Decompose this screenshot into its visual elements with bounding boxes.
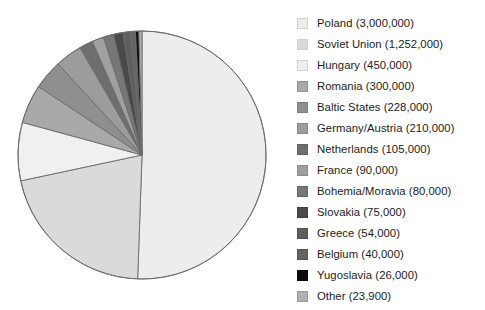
legend-item[interactable]: Germany/Austria (210,000)	[297, 118, 485, 139]
legend-item-label: France (90,000)	[317, 165, 398, 176]
legend-item-label: Bohemia/Moravia (80,000)	[317, 186, 451, 197]
legend-item-label: Hungary (450,000)	[317, 60, 412, 71]
legend-item[interactable]: France (90,000)	[297, 160, 485, 181]
legend-item[interactable]: Baltic States (228,000)	[297, 97, 485, 118]
legend-item-label: Yugoslavia (26,000)	[317, 270, 418, 281]
legend-item-label: Netherlands (105,000)	[317, 144, 430, 155]
legend-item-label: Romania (300,000)	[317, 81, 415, 92]
pie-chart-area	[0, 0, 290, 310]
legend-item[interactable]: Soviet Union (1,252,000)	[297, 34, 485, 55]
legend-swatch-icon	[297, 18, 308, 29]
legend-swatch-icon	[297, 186, 308, 197]
legend-item[interactable]: Romania (300,000)	[297, 76, 485, 97]
legend-item-label: Germany/Austria (210,000)	[317, 123, 455, 134]
legend-item-label: Slovakia (75,000)	[317, 207, 406, 218]
legend-item[interactable]: Yugoslavia (26,000)	[297, 265, 485, 286]
legend-swatch-icon	[297, 249, 308, 260]
legend-item-label: Belgium (40,000)	[317, 249, 404, 260]
legend-item[interactable]: Belgium (40,000)	[297, 244, 485, 265]
legend-swatch-icon	[297, 81, 308, 92]
legend-item-label: Poland (3,000,000)	[317, 18, 414, 29]
legend-item[interactable]: Poland (3,000,000)	[297, 13, 485, 34]
legend-swatch-icon	[297, 39, 308, 50]
legend-swatch-icon	[297, 144, 308, 155]
legend-item[interactable]: Bohemia/Moravia (80,000)	[297, 181, 485, 202]
legend-swatch-icon	[297, 123, 308, 134]
legend-swatch-icon	[297, 60, 308, 71]
legend-item-label: Baltic States (228,000)	[317, 102, 432, 113]
legend-swatch-icon	[297, 270, 308, 281]
legend-item-label: Other (23,900)	[317, 291, 391, 302]
legend-item-label: Greece (54,000)	[317, 228, 400, 239]
chart-legend: Poland (3,000,000)Soviet Union (1,252,00…	[297, 13, 485, 307]
legend-item[interactable]: Netherlands (105,000)	[297, 139, 485, 160]
legend-swatch-icon	[297, 291, 308, 302]
legend-item[interactable]: Other (23,900)	[297, 286, 485, 307]
legend-item[interactable]: Greece (54,000)	[297, 223, 485, 244]
legend-item[interactable]: Slovakia (75,000)	[297, 202, 485, 223]
pie-chart-svg	[0, 0, 290, 310]
legend-swatch-icon	[297, 228, 308, 239]
legend-swatch-icon	[297, 207, 308, 218]
pie-chart-page: Poland (3,000,000)Soviet Union (1,252,00…	[0, 0, 485, 310]
legend-item[interactable]: Hungary (450,000)	[297, 55, 485, 76]
legend-swatch-icon	[297, 102, 308, 113]
legend-item-label: Soviet Union (1,252,000)	[317, 39, 443, 50]
pie-slice[interactable]	[138, 31, 266, 279]
legend-swatch-icon	[297, 165, 308, 176]
